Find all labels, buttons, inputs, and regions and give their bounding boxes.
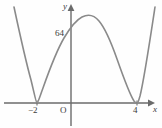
quartic-curve xyxy=(14,7,155,103)
y-axis xyxy=(68,4,75,126)
tick-label-4: 4 xyxy=(133,106,138,115)
y-intercept-label: 64 xyxy=(55,29,64,38)
y-axis-label: y xyxy=(63,2,67,11)
tick-label-neg2: −2 xyxy=(28,106,38,115)
y-axis-arrowhead xyxy=(68,4,75,11)
origin-label: O xyxy=(60,106,67,115)
graph-figure: y x O 64 −2 4 xyxy=(0,0,162,128)
x-axis-label: x xyxy=(153,105,157,114)
